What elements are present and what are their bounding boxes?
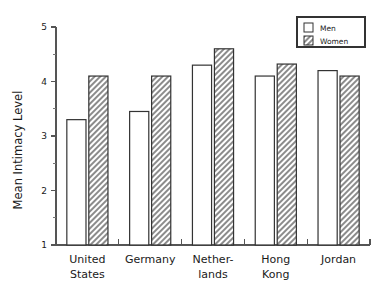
bar-women-netherlands — [214, 49, 233, 245]
bar-men-netherlands — [192, 65, 211, 245]
y-tick-label: 2 — [41, 186, 47, 196]
y-axis: 12345 — [41, 22, 56, 250]
category-labels: UnitedStatesGermanyNether-landsHongKongJ… — [69, 253, 356, 281]
bar-women-jordan — [340, 76, 359, 245]
bars-layer — [67, 49, 359, 245]
y-axis-title: Mean Intimacy Level — [11, 91, 25, 210]
bar-women-united-states — [89, 76, 108, 245]
bar-men-hong-kong — [255, 76, 274, 245]
chart-canvas: 12345 UnitedStatesGermanyNether-landsHon… — [0, 0, 378, 297]
category-label: Germany — [125, 253, 176, 266]
bar-chart-figure: 12345 UnitedStatesGermanyNether-landsHon… — [0, 0, 378, 297]
chart-legend: MenWomen — [297, 17, 365, 47]
category-label: Jordan — [320, 253, 356, 266]
women-swatch[interactable] — [304, 36, 313, 45]
legend-label-men: Men — [320, 24, 336, 33]
category-label: Nether- — [193, 253, 234, 266]
y-tick-label: 3 — [41, 131, 47, 141]
category-label: lands — [198, 268, 228, 281]
bar-men-germany — [130, 111, 149, 245]
category-label: Hong — [261, 253, 290, 266]
y-tick-label: 1 — [41, 240, 47, 250]
category-label: United — [69, 253, 105, 266]
bar-women-hong-kong — [277, 64, 296, 245]
category-label: States — [70, 268, 105, 281]
y-tick-label: 4 — [41, 77, 47, 87]
category-label: Kong — [262, 268, 289, 281]
legend-label-women: Women — [320, 37, 348, 46]
men-swatch[interactable] — [304, 23, 313, 32]
y-tick-label: 5 — [41, 22, 47, 32]
bar-men-united-states — [67, 120, 86, 245]
bar-women-germany — [152, 76, 171, 245]
bar-men-jordan — [318, 71, 337, 245]
